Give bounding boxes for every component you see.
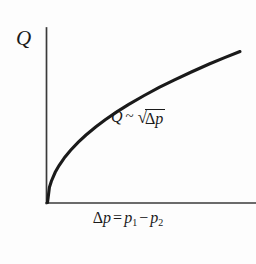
equals-symbol: = [111,209,124,226]
minus-symbol: − [137,209,150,226]
y-axis-label: Q [16,28,31,49]
annotation-lhs: Q [111,109,123,125]
x-axis-label: Δp=p1−p2 [0,210,256,226]
pressure-variable: p [103,209,111,226]
sqrt-curve [48,52,241,203]
square-root-expression: √ Δp [137,109,166,127]
p2-subscript: 2 [158,217,163,228]
radical-sign-icon: √ [138,109,147,127]
delta-symbol-x: Δ [93,209,103,226]
curve-annotation: Q ~ √ Δp [111,108,165,126]
annotation-relation-symbol: ~ [126,109,134,124]
flow-rate-vs-pressure-drop-chart: Q Q ~ √ Δp Δp=p1−p2 [0,0,256,264]
p1-subscript: 1 [132,217,137,228]
p1-base: p [124,209,132,226]
radicand: Δp [145,109,165,127]
p2-base: p [150,209,158,226]
radicand-variable: p [155,110,163,127]
